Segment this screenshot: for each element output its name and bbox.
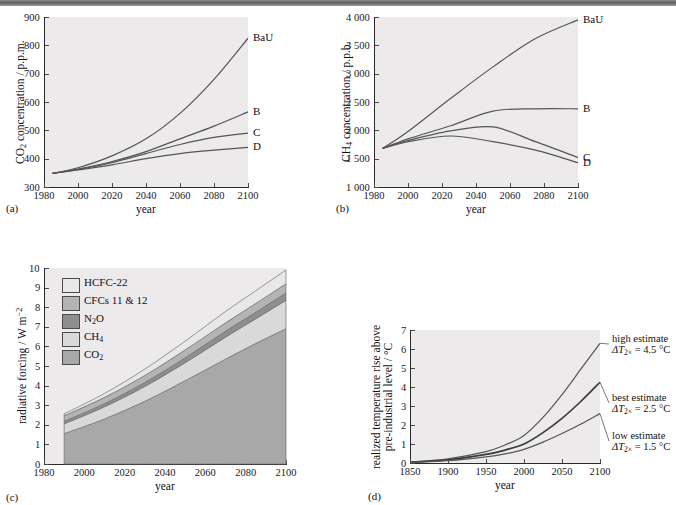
annotation-value-best-estimate: ΔT2× = 2.5 °C <box>612 403 670 416</box>
annotation-leader-best-estimate <box>600 382 609 403</box>
annotation-title-low-estimate: low estimate <box>612 430 670 441</box>
x-axis-label-d: year <box>495 479 515 491</box>
annotation-value-low-estimate: ΔT2× = 1.5 °C <box>612 441 670 454</box>
annotation-leader-high-estimate <box>600 343 609 344</box>
series-line-d-low-estimate <box>410 414 600 463</box>
series-layer-d <box>0 0 676 505</box>
series-line-d-high-estimate <box>410 343 600 462</box>
annotation-value-high-estimate: ΔT2× = 4.5 °C <box>612 344 670 357</box>
panel-tag-d: (d) <box>368 491 381 503</box>
y-axis-label-d: realized temperature rise abovepre-indus… <box>370 325 395 469</box>
annotation-title-best-estimate: best estimate <box>612 392 670 403</box>
annotation-title-high-estimate: high estimate <box>612 333 670 344</box>
annotation-d-high-estimate: high estimateΔT2× = 4.5 °C <box>612 333 670 357</box>
annotation-d-best-estimate: best estimateΔT2× = 2.5 °C <box>612 392 670 416</box>
annotation-d-low-estimate: low estimateΔT2× = 1.5 °C <box>612 430 670 454</box>
series-line-d-best-estimate <box>410 382 600 462</box>
annotation-leader-low-estimate <box>600 414 609 441</box>
